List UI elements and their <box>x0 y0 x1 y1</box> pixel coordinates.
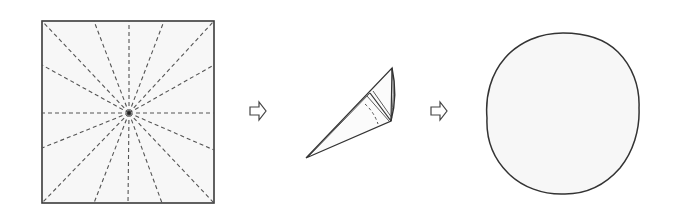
step-1-square-sheet <box>42 21 214 203</box>
step-2-cone <box>306 68 395 158</box>
arrow-right-icon <box>250 102 266 120</box>
folding-diagram <box>0 0 678 213</box>
arrow-right-icon <box>431 102 447 120</box>
step-3-circle <box>487 33 639 194</box>
circular-shape <box>487 33 639 194</box>
cone-body <box>306 68 392 158</box>
center-point <box>127 111 131 115</box>
